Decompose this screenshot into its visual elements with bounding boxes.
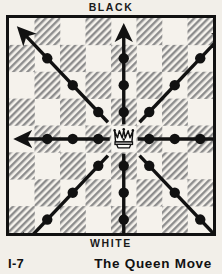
move-dot bbox=[68, 80, 78, 90]
board-square-dark bbox=[60, 45, 86, 72]
board-square-dark bbox=[86, 179, 112, 206]
board-square-dark bbox=[9, 45, 35, 72]
board-label-white: WHITE bbox=[0, 236, 222, 251]
move-dot bbox=[144, 107, 154, 117]
figure-number: I-7 bbox=[8, 256, 24, 271]
board-label-black: BLACK bbox=[0, 0, 222, 15]
chessboard-canvas bbox=[9, 18, 213, 233]
move-dot bbox=[93, 161, 103, 171]
move-dot bbox=[42, 53, 52, 63]
board-square-dark bbox=[60, 152, 86, 179]
board-square-dark bbox=[137, 179, 163, 206]
move-dot bbox=[42, 214, 52, 224]
move-dot bbox=[119, 161, 129, 171]
move-dot bbox=[68, 187, 78, 197]
move-dot bbox=[119, 187, 129, 197]
chessboard bbox=[6, 15, 216, 236]
move-dot bbox=[170, 80, 180, 90]
board-square-dark bbox=[35, 18, 61, 45]
move-dot bbox=[144, 134, 154, 144]
figure-title: The Queen Move bbox=[94, 256, 212, 271]
board-square-dark bbox=[9, 152, 35, 179]
move-dot bbox=[170, 134, 180, 144]
white-queen-piece[interactable] bbox=[112, 126, 136, 151]
board-square-dark bbox=[9, 206, 35, 233]
board-square-dark bbox=[188, 72, 214, 99]
board-square-dark bbox=[137, 72, 163, 99]
chess-figure: BLACK WHITE I-7 The Queen Move bbox=[0, 0, 222, 274]
board-square-dark bbox=[188, 18, 214, 45]
board-square-dark bbox=[162, 152, 188, 179]
board-square-dark bbox=[162, 99, 188, 126]
board-square-dark bbox=[188, 179, 214, 206]
move-dot bbox=[170, 187, 180, 197]
board-square-dark bbox=[9, 99, 35, 126]
board-square-dark bbox=[35, 179, 61, 206]
move-dot bbox=[42, 134, 52, 144]
board-square-dark bbox=[137, 18, 163, 45]
board-square-dark bbox=[35, 72, 61, 99]
board-square-dark bbox=[162, 45, 188, 72]
move-dot bbox=[119, 80, 129, 90]
board-square-dark bbox=[60, 99, 86, 126]
board-square-dark bbox=[86, 18, 112, 45]
move-dot bbox=[144, 161, 154, 171]
figure-caption: I-7 The Queen Move bbox=[0, 252, 222, 274]
board-square-dark bbox=[86, 72, 112, 99]
move-dot bbox=[93, 107, 103, 117]
board-square-dark bbox=[162, 206, 188, 233]
board-square-dark bbox=[60, 206, 86, 233]
move-dot bbox=[119, 214, 129, 224]
move-dot bbox=[195, 214, 205, 224]
move-dot bbox=[195, 134, 205, 144]
move-dot bbox=[195, 53, 205, 63]
move-dot bbox=[93, 134, 103, 144]
move-dot bbox=[68, 134, 78, 144]
move-dot bbox=[119, 107, 129, 117]
move-dot bbox=[119, 53, 129, 63]
